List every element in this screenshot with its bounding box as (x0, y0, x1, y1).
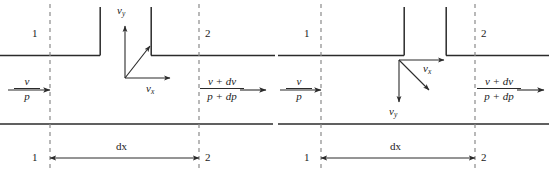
velocity-axes (125, 26, 170, 78)
station-label-top-2: 2 (205, 28, 211, 39)
axis-label-vy: vy (389, 106, 397, 118)
inlet-velocity-label: v (14, 75, 40, 88)
inlet-pressure-label: p (286, 88, 312, 102)
outlet-velocity-label: v + dv (200, 75, 244, 88)
inlet-velocity-label: v (286, 75, 312, 88)
outlet-pressure-label: p + dp (477, 88, 521, 102)
station-label-top-1: 1 (32, 28, 38, 39)
station-label-bottom-2: 2 (481, 152, 487, 163)
station-label-bottom-1: 1 (304, 152, 310, 163)
outlet-state-label: v + dv p + dp (477, 75, 521, 102)
axis-label-vx: vx (146, 83, 154, 95)
upper-duct-wall (278, 7, 549, 56)
diagram-panel-right: 1 2 1 2 v p v + dv p + dp vx vy dx (274, 0, 549, 182)
inlet-pressure-label: p (14, 88, 40, 102)
axis-label-vx: vx (423, 63, 431, 75)
inlet-state-label: v p (14, 75, 40, 102)
station-label-top-1: 1 (304, 28, 310, 39)
dx-label: dx (116, 141, 127, 152)
axis-label-vy: vy (117, 5, 125, 17)
outlet-pressure-label: p + dp (200, 88, 244, 102)
velocity-axes (399, 60, 444, 102)
upper-duct-wall (0, 7, 275, 56)
station-label-bottom-1: 1 (32, 152, 38, 163)
inlet-state-label: v p (286, 75, 312, 102)
dx-label: dx (390, 141, 401, 152)
diagram-panel-left: 1 2 1 2 v p v + dv p + dp vy vx dx (0, 0, 275, 182)
outlet-state-label: v + dv p + dp (200, 75, 244, 102)
station-label-top-2: 2 (481, 28, 487, 39)
outlet-velocity-label: v + dv (477, 75, 521, 88)
figure-root: 1 2 1 2 v p v + dv p + dp vy vx dx (0, 0, 549, 182)
station-label-bottom-2: 2 (205, 152, 211, 163)
